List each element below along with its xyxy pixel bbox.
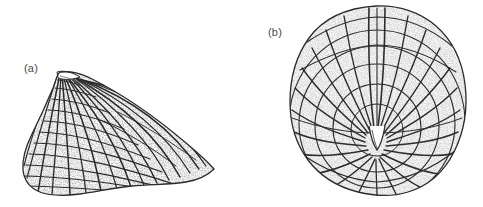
- specimen-illustration-svg: [0, 0, 483, 207]
- panel-label-a: (a): [24, 62, 38, 74]
- panel-label-b: (b): [268, 26, 282, 38]
- specimen-a-drawing: [20, 66, 220, 202]
- figure-plate: (a) (b): [0, 0, 483, 207]
- specimen-b-drawing: [286, 0, 470, 207]
